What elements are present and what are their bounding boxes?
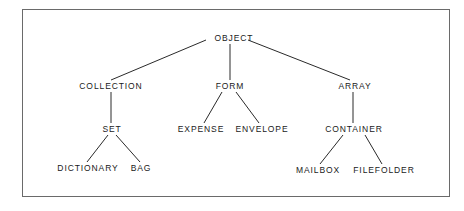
node-object: OBJECT xyxy=(215,33,254,43)
tree-edges xyxy=(0,0,464,211)
node-filefolder: FILEFOLDER xyxy=(353,165,414,175)
edge-form-expense xyxy=(204,92,222,123)
edge-object-collection xyxy=(111,40,206,80)
edge-set-bag xyxy=(116,135,140,162)
node-mailbox: MAILBOX xyxy=(296,165,340,175)
node-dictionary: DICTIONARY xyxy=(57,163,118,173)
edge-form-envelope xyxy=(236,92,259,123)
node-form: FORM xyxy=(216,81,245,91)
node-set: SET xyxy=(102,124,121,134)
node-container: CONTAINER xyxy=(325,124,383,134)
edge-set-dictionary xyxy=(87,135,108,162)
edge-container-mailbox xyxy=(320,135,343,164)
edge-container-filefolder xyxy=(365,135,382,164)
node-array: ARRAY xyxy=(338,81,371,91)
node-envelope: ENVELOPE xyxy=(235,124,288,134)
node-expense: EXPENSE xyxy=(178,124,224,134)
edge-object-array xyxy=(248,40,350,80)
node-collection: COLLECTION xyxy=(79,81,142,91)
node-bag: BAG xyxy=(131,163,152,173)
